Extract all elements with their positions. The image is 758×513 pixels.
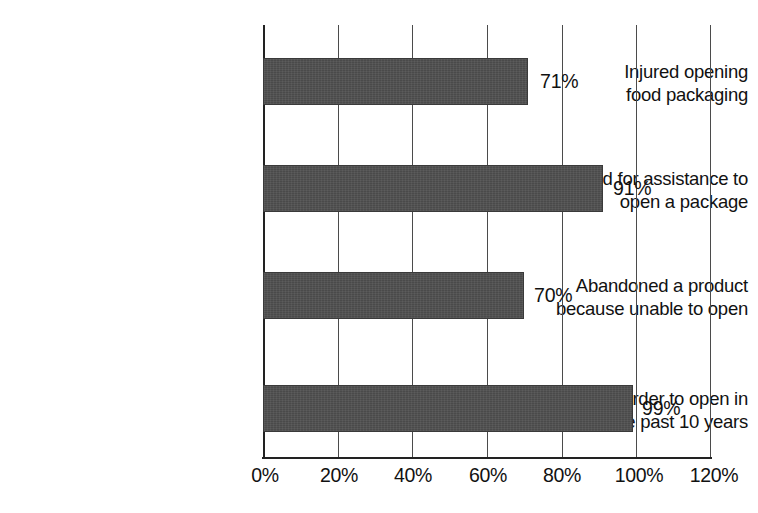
bar-3 [263,385,633,432]
bar-value-1: 91% [613,179,651,199]
xtick-label-0: 0% [251,466,279,486]
bar-value-3: 99% [642,399,680,419]
bar-1 [263,165,603,212]
xtick-label-3: 60% [469,466,507,486]
xtick-label-4: 80% [543,466,581,486]
bar-chart: Injured opening food packaging Asked for… [0,0,758,513]
bar-2 [263,272,524,319]
bar-0 [263,58,528,105]
xtick-label-6: 120% [690,466,739,486]
x-axis-line [262,457,712,459]
xtick-label-1: 20% [320,466,358,486]
gridline-120 [710,25,711,458]
gridline-100 [636,25,637,458]
plot-area [263,25,711,458]
bar-value-2: 70% [534,286,572,306]
xtick-label-2: 40% [394,466,432,486]
xtick-label-5: 100% [615,466,664,486]
bar-value-0: 71% [540,72,578,92]
